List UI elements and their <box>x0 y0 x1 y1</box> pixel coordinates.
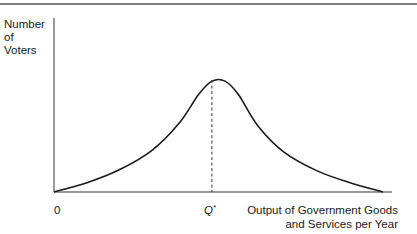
x-axis-label-line-1: Output of Government Goods <box>247 204 398 216</box>
y-axis-label-line-2: of <box>4 31 14 43</box>
figure: Number of Voters 0 Q* Output of Governme… <box>0 0 417 234</box>
y-axis-label-line-3: Voters <box>4 44 37 56</box>
x-axis-label-line-2: and Services per Year <box>285 218 398 230</box>
peak-label: Q* <box>204 203 217 216</box>
voter-distribution-curve <box>54 79 383 192</box>
y-axis-label-line-1: Number <box>4 18 45 30</box>
origin-label: 0 <box>54 204 60 216</box>
